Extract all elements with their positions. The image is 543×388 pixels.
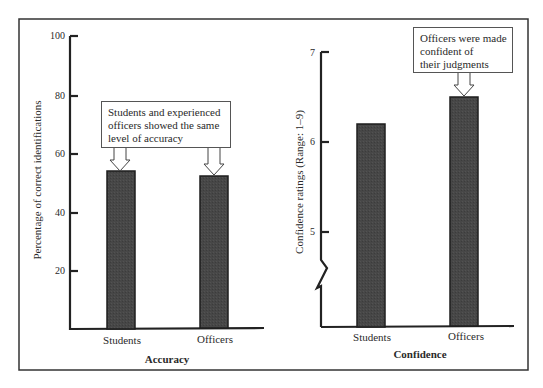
- category-label-students: Students: [103, 334, 141, 346]
- accuracy-callout: Students and experienced officers showed…: [101, 101, 231, 148]
- tick-label: 5: [310, 226, 315, 237]
- category-label-officers: Officers: [448, 330, 484, 342]
- tick-label: 100: [50, 30, 65, 41]
- arrow-down-icon: [204, 148, 224, 175]
- accuracy-x-label: Accuracy: [145, 353, 190, 365]
- tick-label: 60: [55, 148, 65, 159]
- bar-students-accuracy: [107, 171, 135, 329]
- tick-label: 40: [55, 207, 65, 218]
- bar-students-confidence: [357, 124, 385, 327]
- bar-officers-confidence: [450, 97, 478, 326]
- callout-line: their judgments: [420, 58, 506, 71]
- callout-line: confident of: [420, 45, 506, 58]
- callout-line: Students and experienced: [108, 106, 224, 119]
- accuracy-chart: 20 40 60 80 100 Percentage of correct id…: [31, 30, 264, 365]
- bar-officers-accuracy: [200, 176, 228, 328]
- tick-label: 7: [310, 47, 315, 58]
- confidence-chart: 5 6 7 Confidence ratings (Range: 1–9) St…: [293, 47, 514, 360]
- callout-line: Officers were made: [420, 32, 506, 45]
- tick-label: 20: [55, 265, 65, 276]
- confidence-x-label: Confidence: [393, 348, 446, 360]
- confidence-y-axis: [317, 52, 327, 327]
- callout-line: level of accuracy: [108, 132, 224, 145]
- confidence-x-axis: [321, 326, 514, 327]
- callout-line: officers showed the same: [108, 119, 224, 132]
- accuracy-x-axis: [70, 328, 264, 329]
- confidence-callout: Officers were made confident of their ju…: [413, 27, 513, 73]
- category-label-students: Students: [353, 331, 391, 343]
- accuracy-y-label: Percentage of correct identifications: [31, 100, 43, 259]
- arrow-down-icon: [110, 148, 130, 171]
- category-label-officers: Officers: [197, 333, 233, 345]
- confidence-y-label: Confidence ratings (Range: 1–9): [293, 110, 306, 254]
- arrow-down-icon: [454, 73, 474, 96]
- tick-label: 80: [55, 90, 65, 101]
- tick-label: 6: [310, 136, 315, 147]
